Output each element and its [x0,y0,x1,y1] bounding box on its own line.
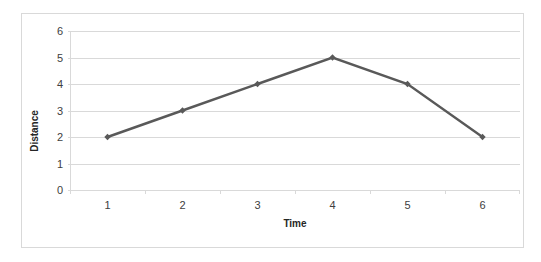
x-tick-1 [145,190,146,194]
x-tick-label-3: 3 [254,199,260,211]
data-point-marker [179,107,185,113]
x-tick-6 [519,190,520,194]
x-tick-start [70,190,71,194]
data-point-marker [329,54,335,60]
data-point-marker [104,134,110,140]
y-axis-title: Distance [29,110,40,152]
x-axis-title: Time [70,218,520,229]
plot-area: 6 5 4 3 2 1 0 1 2 3 4 5 6 Time [70,31,520,190]
y-tick-label-4: 4 [57,78,63,90]
chart-frame: Distance 6 5 4 3 2 1 0 [21,13,524,248]
y-tick-label-2: 2 [57,131,63,143]
y-tick-label-1: 1 [57,158,63,170]
y-tick-label-5: 5 [57,52,63,64]
x-tick-label-4: 4 [329,199,335,211]
data-point-marker [254,81,260,87]
x-tick-label-1: 1 [104,199,110,211]
x-tick-3 [295,190,296,194]
x-tick-label-5: 5 [404,199,410,211]
series-polyline [108,58,483,138]
x-tick-2 [220,190,221,194]
y-tick-label-3: 3 [57,105,63,117]
x-tick-label-6: 6 [479,199,485,211]
y-tick-label-6: 6 [57,25,63,37]
x-tick-4 [370,190,371,194]
series-markers [104,54,485,140]
y-tick-label-0: 0 [57,184,63,196]
x-tick-label-2: 2 [179,199,185,211]
data-series-line [70,31,520,190]
x-tick-5 [445,190,446,194]
